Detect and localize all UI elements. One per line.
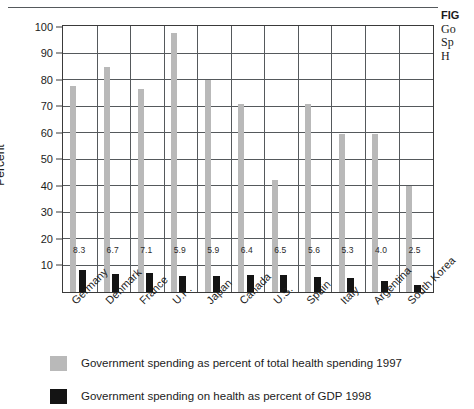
y-tick-mark [56,159,62,160]
y-tick-mark [56,185,62,186]
bar-chart: Percent 8.36.77.15.95.96.46.55.65.34.02.… [0,0,474,409]
legend-label-gray: Government spending as percent of total … [81,357,402,369]
y-tick-label: 70 [21,100,53,112]
y-tick-label: 10 [21,259,53,271]
y-tick-mark [56,238,62,239]
y-tick-mark [56,79,62,80]
y-tick-label: 100 [21,21,53,33]
y-tick-mark [56,26,62,27]
y-tick-mark [56,265,62,266]
legend-label-black: Government spending on health as percent… [81,390,371,402]
y-tick-label: 80 [21,74,53,86]
legend-swatch-gray [50,356,67,371]
y-tick-label: 60 [21,127,53,139]
y-tick-mark [56,53,62,54]
y-tick-label: 50 [21,153,53,165]
y-tick-mark [56,106,62,107]
y-tick-label: 40 [21,180,53,192]
y-tick-label: 90 [21,47,53,59]
y-tick-mark [56,132,62,133]
y-tick-label: 30 [21,206,53,218]
y-axis-tick-labels: 102030405060708090100 [0,0,474,409]
figure-page: FIG Go Sp H Percent 8.36.77.15.95.96.46.… [0,0,474,409]
y-tick-mark [56,212,62,213]
legend-item-gray: Government spending as percent of total … [50,352,402,374]
legend-item-black: Government spending on health as percent… [50,385,371,407]
y-tick-label: 20 [21,233,53,245]
legend-swatch-black [50,389,67,404]
